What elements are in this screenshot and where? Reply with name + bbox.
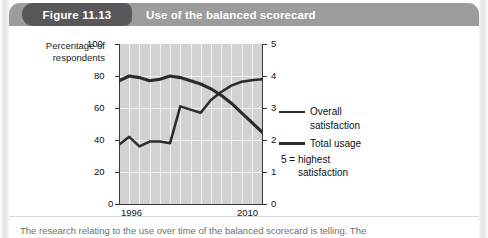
legend-item-total-usage: Total usage [279, 134, 399, 152]
y2-tick-mark [263, 140, 267, 141]
y2-tick-label: 3 [271, 103, 276, 113]
y2-tick-label: 1 [271, 167, 276, 177]
y2-tick-mark [263, 204, 267, 205]
legend-item-overall-satisfaction: Overall satisfaction [279, 102, 399, 133]
y-tick-label: 0 [108, 199, 113, 209]
y2-tick-mark [263, 76, 267, 77]
legend-label: Overall [310, 106, 342, 117]
y2-tick-label: 5 [271, 39, 276, 49]
y2-tick-mark [263, 108, 267, 109]
legend-swatch-line-icon [279, 142, 305, 145]
y-tick-label: 80 [94, 71, 105, 81]
y-axis-title: Percentage of respondents [17, 40, 105, 64]
y-axis-title-line1: Percentage of [17, 40, 105, 52]
figure-body: Percentage of respondents [9, 26, 479, 238]
figure-divider [9, 216, 479, 217]
y2-tick-mark [263, 172, 267, 173]
chart-legend: Overall satisfaction Total usage [279, 102, 399, 153]
y2-tick-label: 4 [271, 71, 276, 81]
y-tick-label: 40 [94, 135, 105, 145]
series-lines [119, 44, 263, 206]
y-tick-label: 60 [94, 103, 105, 113]
y-axis-title-line2: respondents [17, 52, 105, 64]
figure-box: Figure 11.13 Use of the balanced scoreca… [0, 0, 488, 238]
chart-note-line1: 5 = highest [281, 154, 330, 165]
series-line-total-usage [119, 76, 262, 132]
chart-note-line2: satisfaction [298, 167, 411, 180]
y-tick-label: 20 [94, 167, 105, 177]
figure-caption: The research relating to the use over ti… [20, 224, 470, 238]
page-edge-right [479, 0, 488, 238]
chart-note: 5 = highest satisfaction [281, 154, 411, 179]
page-edge-left [0, 0, 9, 238]
figure-header: Figure 11.13 Use of the balanced scoreca… [9, 3, 479, 26]
figure-number-pill: Figure 11.13 [22, 3, 132, 26]
y2-tick-label: 0 [271, 199, 276, 209]
legend-label: Total usage [310, 137, 361, 148]
figure-title: Use of the balanced scorecard [146, 3, 316, 26]
legend-label-cont: satisfaction [310, 120, 399, 133]
figure-number-label: Figure 11.13 [43, 9, 112, 21]
chart: Percentage of respondents [9, 26, 479, 216]
y2-tick-label: 2 [271, 135, 276, 145]
y2-tick-mark [263, 44, 267, 45]
legend-swatch-line-icon [279, 111, 305, 113]
